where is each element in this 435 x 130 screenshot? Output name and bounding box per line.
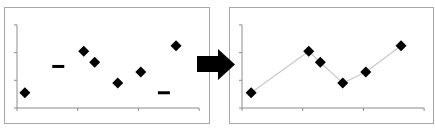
right-arrow-icon — [0, 0, 435, 130]
arrow-shape — [197, 49, 235, 80]
